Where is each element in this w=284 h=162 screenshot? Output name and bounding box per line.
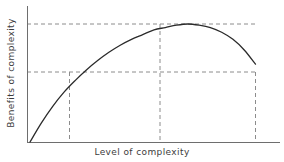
axes <box>27 6 280 143</box>
y-axis-label: Benefits of complexity <box>6 18 16 128</box>
y-axis-label-container: Benefits of complexity <box>0 0 22 145</box>
chart-figure: Benefits of complexity Level of complexi… <box>0 0 284 162</box>
reference-lines <box>27 24 256 142</box>
benefits-curve <box>30 24 256 142</box>
chart-canvas <box>0 0 284 162</box>
x-axis-label: Level of complexity <box>0 147 284 157</box>
